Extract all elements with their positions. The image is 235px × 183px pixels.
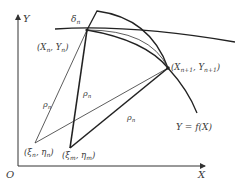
rho-label-1: ρn [42,100,52,110]
upper-boundary-curve [87,11,168,68]
function-label: Y = f(X) [176,122,212,132]
origin-label: O [6,169,14,180]
xi-n-label: (ξn, ηn) [24,147,54,158]
point-n1-marker [166,66,170,70]
diagram-canvas: Y X O δn (Xn, Yn) (Xn+1, Yn+1) (ξn, ηn) … [0,0,235,183]
rho-line-m-to-pn1 [70,68,168,148]
point-n-marker [85,28,88,31]
rho-label-2: ρn [82,89,92,99]
point-n-label: (Xn, Yn) [37,42,68,53]
rho-line-n-to-pn1 [35,68,168,143]
delta-label: δn [71,14,80,25]
delta-arc [55,28,235,42]
point-n1-label: (Xn+1, Yn+1) [171,62,220,73]
y-axis-label: Y [23,13,31,24]
xi-m-label: (ξm, ηm) [62,150,95,161]
chord-curve [87,30,168,68]
x-axis-label: X [197,169,206,180]
rho-label-3: ρn [126,113,136,123]
